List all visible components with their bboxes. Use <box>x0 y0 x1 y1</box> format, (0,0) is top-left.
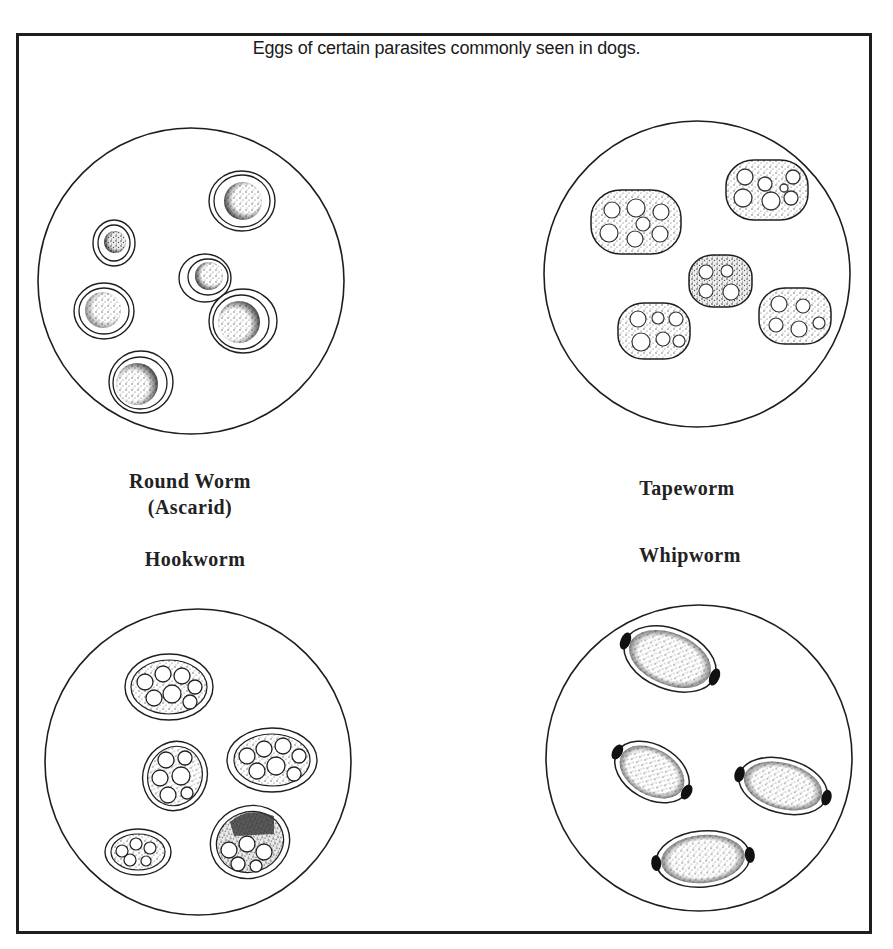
whipworm-field-circle <box>543 602 855 914</box>
whipworm-egg-icon <box>610 611 731 706</box>
roundworm-egg-icon <box>209 289 277 353</box>
whipworm-egg-icon <box>600 726 705 818</box>
hookworm-egg-icon <box>125 654 213 720</box>
hookworm-field-circle <box>42 606 354 918</box>
roundworm-label: Round Worm (Ascarid) <box>90 468 290 520</box>
whipworm-egg-icon <box>649 827 757 892</box>
tapeworm-label: Tapeworm <box>587 475 787 501</box>
roundworm-egg-icon <box>93 220 135 266</box>
roundworm-field-circle <box>35 125 347 437</box>
hookworm-egg-icon <box>105 829 171 875</box>
figure-title: Eggs of certain parasites commonly seen … <box>0 38 893 59</box>
hookworm-egg-icon <box>227 728 317 792</box>
tapeworm-field-circle <box>541 118 853 430</box>
hookworm-egg-icon <box>200 794 300 889</box>
roundworm-egg-icon <box>109 351 173 413</box>
roundworm-egg-icon <box>209 171 275 231</box>
tapeworm-egg-packet-icon <box>618 303 690 359</box>
tapeworm-egg-packet-icon <box>726 160 808 220</box>
tapeworm-egg-packet-icon <box>591 190 681 254</box>
tapeworm-egg-packet-icon <box>759 288 831 344</box>
whipworm-label: Whipworm <box>590 542 790 568</box>
whipworm-egg-icon <box>728 747 839 825</box>
hookworm-egg-icon <box>133 732 217 820</box>
tapeworm-egg-packet-icon <box>689 255 752 307</box>
hookworm-label: Hookworm <box>95 546 295 572</box>
roundworm-egg-icon <box>74 283 134 339</box>
